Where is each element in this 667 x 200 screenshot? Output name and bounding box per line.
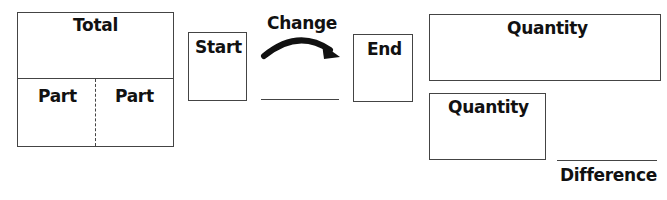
difference-label: Difference xyxy=(560,165,657,185)
part-left-label: Part xyxy=(38,86,77,106)
change-blank-line xyxy=(261,99,339,100)
part-dashed-divider xyxy=(95,79,96,146)
total-label: Total xyxy=(73,15,118,35)
end-label: End xyxy=(367,39,402,59)
change-label: Change xyxy=(267,13,337,33)
difference-blank-line xyxy=(557,160,657,161)
part-right-label: Part xyxy=(115,86,154,106)
start-label: Start xyxy=(195,37,242,57)
larger-quantity-label: Quantity xyxy=(507,18,588,38)
curved-arrow-icon xyxy=(258,34,344,64)
smaller-quantity-label: Quantity xyxy=(448,97,529,117)
